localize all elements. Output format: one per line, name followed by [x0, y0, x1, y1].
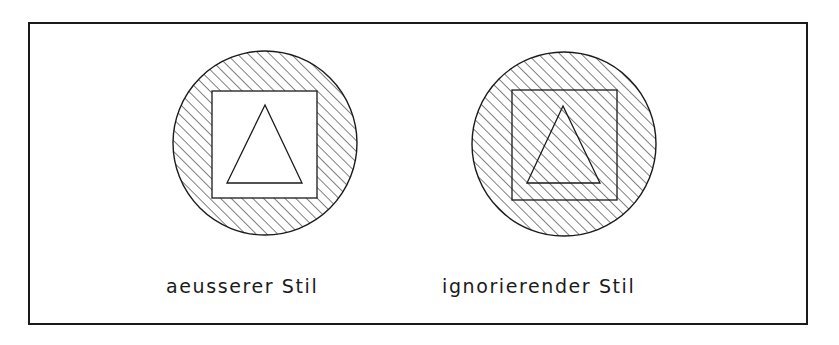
- hatch-fill: [0, 0, 839, 345]
- figure-outer-style: aeusserer Stil: [0, 0, 839, 345]
- outer-frame: [29, 23, 807, 324]
- hatch-fill: [0, 0, 839, 345]
- figure-ignore-style: ignorierender Stil: [0, 0, 839, 345]
- caption-outer-style: aeusserer Stil: [166, 275, 318, 297]
- caption-ignore-style: ignorierender Stil: [442, 275, 635, 297]
- hatch-style-diagram: aeusserer Stil ignorierender Stil: [0, 0, 839, 345]
